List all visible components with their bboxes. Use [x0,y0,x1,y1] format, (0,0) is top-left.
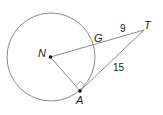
point-a [78,89,82,93]
label-g: G [94,32,103,44]
label-n: N [38,47,46,59]
measure-gt: 9 [120,23,126,34]
measure-at: 15 [113,62,125,73]
label-t: T [144,19,152,31]
point-n [49,55,53,59]
geometry-diagram: N A G T 9 15 [0,0,163,115]
segment-na [51,57,81,91]
label-a: A [75,94,83,106]
right-angle-mark [76,81,86,86]
